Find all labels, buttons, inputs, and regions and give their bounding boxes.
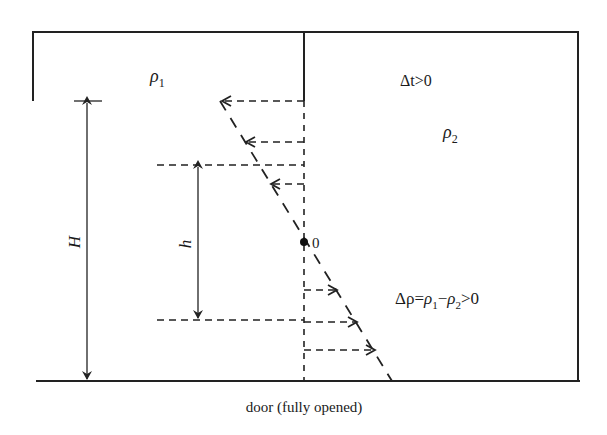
lower-flow-arrows: [304, 290, 375, 350]
right-room-wall: [304, 32, 578, 381]
right-density-label: ρ2: [442, 122, 458, 146]
neutral-height-dimension: h: [176, 167, 198, 318]
left-room-wall: [33, 32, 304, 101]
density-difference-equation: Δρ=ρ1−ρ2>0: [395, 289, 479, 311]
neutral-point-marker: [300, 238, 308, 246]
neutral-point-label: 0: [312, 235, 320, 251]
total-height-dimension: H: [65, 101, 102, 379]
temperature-difference-label: Δt>0: [400, 72, 432, 89]
neutral-height-label: h: [176, 240, 195, 249]
total-height-label: H: [65, 234, 84, 249]
door-airflow-diagram: 0 H h ρ1 Δt>0 ρ2 Δρ=ρ1−ρ2>0 door (fully …: [0, 0, 607, 435]
left-density-label: ρ1: [149, 66, 165, 90]
door-caption: door (fully opened): [246, 399, 363, 416]
room-walls: [33, 32, 580, 381]
